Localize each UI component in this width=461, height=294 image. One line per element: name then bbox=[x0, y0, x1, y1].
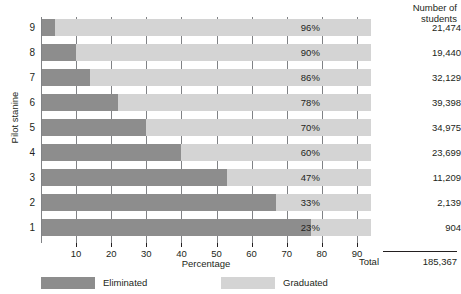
total-label: Total bbox=[359, 256, 379, 267]
x-tick-80 bbox=[322, 243, 323, 247]
bar-segment-eliminated bbox=[41, 219, 311, 236]
bar-row: 233%2,139 bbox=[41, 194, 371, 211]
bar-segment-eliminated bbox=[41, 194, 276, 211]
bar-segment-graduated bbox=[311, 219, 371, 236]
y-tick-label-stanine-9: 9 bbox=[17, 19, 35, 36]
x-axis: 102030405060708090 bbox=[41, 243, 371, 244]
stacked-bar-chart: Number of students Pilot stanine 996%21,… bbox=[0, 0, 461, 294]
x-tick-50 bbox=[217, 243, 218, 247]
x-tick-60 bbox=[252, 243, 253, 247]
students-count-label: 11,209 bbox=[377, 169, 461, 186]
x-axis-title: Percentage bbox=[41, 258, 371, 269]
bar-segment-eliminated bbox=[41, 19, 55, 36]
x-tick-70 bbox=[287, 243, 288, 247]
bar-value-label: 96% bbox=[292, 19, 320, 36]
students-count-label: 32,129 bbox=[377, 69, 461, 86]
bar-row: 996%21,474 bbox=[41, 19, 371, 36]
legend-label-eliminated: Eliminated bbox=[103, 276, 147, 290]
bar-value-label: 23% bbox=[292, 219, 320, 236]
legend: EliminatedGraduated bbox=[41, 276, 371, 290]
y-tick-label-stanine-8: 8 bbox=[17, 44, 35, 61]
bar-segment-graduated bbox=[90, 69, 371, 86]
y-axis-line bbox=[41, 17, 42, 243]
y-tick-label-stanine-1: 1 bbox=[17, 219, 35, 236]
bar-value-label: 47% bbox=[292, 169, 320, 186]
bar-segment-eliminated bbox=[41, 69, 90, 86]
x-tick-30 bbox=[146, 243, 147, 247]
students-count-label: 34,975 bbox=[377, 119, 461, 136]
bar-value-label: 60% bbox=[292, 144, 320, 161]
bar-segment-graduated bbox=[118, 94, 371, 111]
bar-value-label: 33% bbox=[292, 194, 320, 211]
legend-swatch-eliminated bbox=[41, 277, 95, 289]
bar-row: 460%23,699 bbox=[41, 144, 371, 161]
bar-segment-graduated bbox=[146, 119, 371, 136]
students-count-label: 39,398 bbox=[377, 94, 461, 111]
bar-row: 347%11,209 bbox=[41, 169, 371, 186]
total-value: 185,367 bbox=[383, 256, 457, 267]
bar-value-label: 78% bbox=[292, 94, 320, 111]
bar-segment-graduated bbox=[76, 44, 371, 61]
bar-row: 570%34,975 bbox=[41, 119, 371, 136]
bar-value-label: 86% bbox=[292, 69, 320, 86]
y-tick-label-stanine-4: 4 bbox=[17, 144, 35, 161]
bar-segment-graduated bbox=[276, 194, 371, 211]
y-tick-label-stanine-3: 3 bbox=[17, 169, 35, 186]
y-tick-label-stanine-2: 2 bbox=[17, 194, 35, 211]
bar-segment-graduated bbox=[55, 19, 371, 36]
bar-segment-graduated bbox=[181, 144, 371, 161]
x-tick-40 bbox=[181, 243, 182, 247]
students-count-label: 23,699 bbox=[377, 144, 461, 161]
bar-segment-eliminated bbox=[41, 169, 227, 186]
students-count-label: 904 bbox=[377, 219, 461, 236]
bar-value-label: 90% bbox=[292, 44, 320, 61]
bar-row: 123%904 bbox=[41, 219, 371, 236]
x-tick-90 bbox=[357, 243, 358, 247]
bar-value-label: 70% bbox=[292, 119, 320, 136]
x-tick-20 bbox=[111, 243, 112, 247]
y-tick-label-stanine-6: 6 bbox=[17, 94, 35, 111]
students-count-label: 19,440 bbox=[377, 44, 461, 61]
students-count-label: 21,474 bbox=[377, 19, 461, 36]
x-tick-10 bbox=[76, 243, 77, 247]
bar-segment-eliminated bbox=[41, 144, 181, 161]
bar-row: 890%19,440 bbox=[41, 44, 371, 61]
bar-segment-eliminated bbox=[41, 94, 118, 111]
students-count-label: 2,139 bbox=[377, 194, 461, 211]
bar-segment-eliminated bbox=[41, 44, 76, 61]
bar-row: 786%32,129 bbox=[41, 69, 371, 86]
legend-label-graduated: Graduated bbox=[283, 276, 328, 290]
bar-segment-eliminated bbox=[41, 119, 146, 136]
legend-swatch-graduated bbox=[221, 277, 275, 289]
y-tick-label-stanine-7: 7 bbox=[17, 69, 35, 86]
plot-area: 996%21,474890%19,440786%32,129678%39,398… bbox=[41, 17, 371, 243]
column-header-line1: Number of bbox=[371, 2, 457, 13]
bar-row: 678%39,398 bbox=[41, 94, 371, 111]
total-rule bbox=[383, 251, 457, 252]
y-tick-label-stanine-5: 5 bbox=[17, 119, 35, 136]
